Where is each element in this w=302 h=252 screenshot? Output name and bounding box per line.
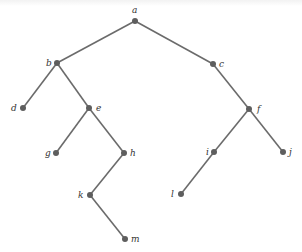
node-label-k: k (78, 190, 83, 200)
edge-a-b (57, 21, 135, 63)
edge-c-f (213, 64, 249, 109)
edge-e-g (56, 108, 89, 153)
node-c (210, 61, 216, 67)
node-l (178, 191, 184, 197)
node-label-j: j (287, 147, 292, 157)
node-h (121, 150, 127, 156)
node-d (20, 105, 26, 111)
node-label-e: e (96, 103, 101, 113)
edge-b-e (57, 63, 89, 108)
edge-f-j (249, 109, 283, 152)
node-b (54, 60, 60, 66)
edge-a-c (135, 21, 213, 64)
tree-diagram: abcdefghijklm (0, 0, 302, 252)
tree-labels: abcdefghijklm (11, 5, 292, 244)
node-f (246, 106, 252, 112)
node-label-g: g (45, 148, 51, 158)
node-label-h: h (130, 148, 136, 158)
node-e (86, 105, 92, 111)
edge-e-h (89, 108, 124, 153)
node-i (211, 149, 217, 155)
tree-nodes (20, 18, 286, 242)
node-label-a: a (132, 5, 137, 15)
edge-f-i (214, 109, 249, 152)
node-label-m: m (131, 234, 140, 244)
edge-b-d (23, 63, 57, 108)
node-j (280, 149, 286, 155)
edge-h-k (90, 153, 124, 195)
node-k (87, 192, 93, 198)
node-label-l: l (171, 189, 174, 199)
tree-edges (23, 21, 283, 239)
node-g (53, 150, 59, 156)
node-m (122, 236, 128, 242)
node-a (132, 18, 138, 24)
node-label-d: d (11, 103, 17, 113)
node-label-b: b (46, 58, 52, 68)
edge-i-l (181, 152, 214, 194)
node-label-c: c (219, 59, 224, 69)
node-label-i: i (206, 147, 209, 157)
node-label-f: f (256, 104, 262, 114)
edge-k-m (90, 195, 125, 239)
